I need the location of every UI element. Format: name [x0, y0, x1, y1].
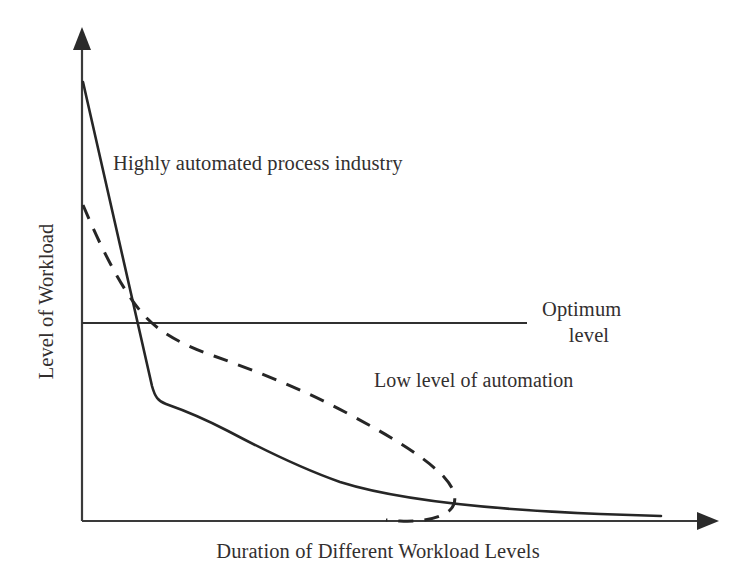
y-axis-arrow-icon: [73, 27, 91, 50]
annotation-low-level-of-automation: Low level of automation: [374, 369, 573, 392]
curve-low-level-of-automation: [83, 205, 455, 521]
x-axis-arrow-icon: [697, 512, 719, 530]
y-axis-title: Level of Workload: [35, 192, 58, 412]
x-axis-title: Duration of Different Workload Levels: [0, 540, 756, 563]
optimum-level-line1: Optimum: [542, 296, 662, 322]
chart-plot-area: [0, 0, 756, 581]
annotation-optimum-level: Optimum level: [542, 296, 662, 348]
annotation-highly-automated-process-industry: Highly automated process industry: [113, 152, 403, 175]
chart-figure: Highly automated process industry Low le…: [0, 0, 756, 581]
optimum-level-line2: level: [542, 322, 662, 348]
